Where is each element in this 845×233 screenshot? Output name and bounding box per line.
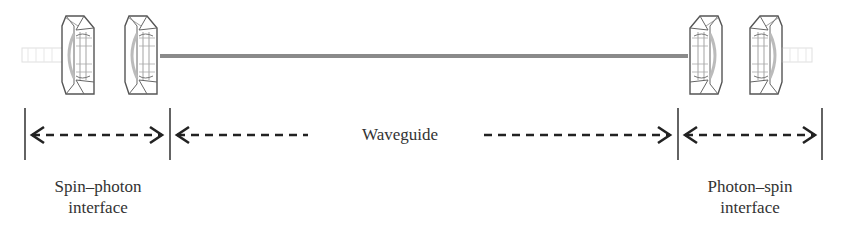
- left-cavity-2: [125, 16, 157, 94]
- right-cavity-2: [750, 16, 782, 94]
- waveguide-label: Waveguide: [330, 124, 470, 145]
- left-interface-line1: Spin–photon: [28, 176, 168, 197]
- right-interface-arrow: [685, 127, 815, 143]
- right-cavity-1: [690, 16, 722, 94]
- right-interface-line1: Photon–spin: [670, 176, 830, 197]
- right-interface-line2: interface: [670, 197, 830, 218]
- left-interface-arrow: [32, 127, 162, 143]
- right-fiber-stub: [782, 48, 812, 62]
- left-interface-label: Spin–photon interface: [28, 176, 168, 218]
- left-cavity-1: [62, 16, 94, 94]
- left-interface-line2: interface: [28, 197, 168, 218]
- right-interface-label: Photon–spin interface: [670, 176, 830, 218]
- left-fiber-stub: [22, 48, 64, 62]
